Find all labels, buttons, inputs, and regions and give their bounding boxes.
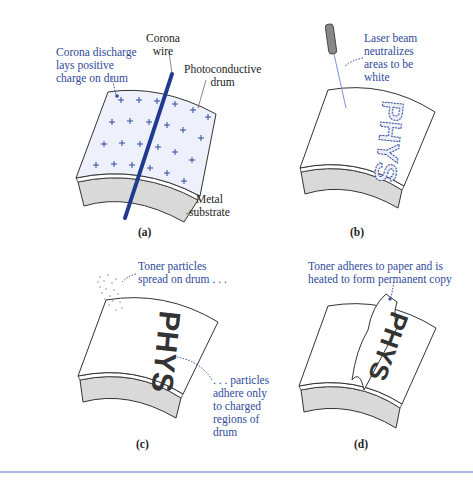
corona-wire-label: Corona wire <box>146 32 180 58</box>
toner-spread-label: Toner particles spread on drum . . . <box>138 260 227 286</box>
laser-source <box>325 24 337 55</box>
caption-d: (d) <box>354 438 368 450</box>
particles-adhere-label: . . . particles adhere only to charged r… <box>213 374 269 439</box>
metal-substrate-label: Metal substrate <box>189 193 230 219</box>
corona-discharge-label: Corona discharge lays positive charge on… <box>56 46 137 85</box>
caption-c: (c) <box>136 438 149 450</box>
caption-b: (b) <box>350 226 364 238</box>
caption-a: (a) <box>138 226 151 238</box>
toner-adheres-label: Toner adheres to paper and is heated to … <box>308 260 452 286</box>
panel-c-drum: PHYS <box>78 274 218 418</box>
panel-d-drum: PHYS <box>299 282 436 428</box>
photoconductive-drum-label: Photoconductive drum <box>184 63 261 89</box>
laser-beam-label: Laser beam neutralizes areas to be white <box>364 32 417 84</box>
bottom-rule <box>0 471 473 473</box>
